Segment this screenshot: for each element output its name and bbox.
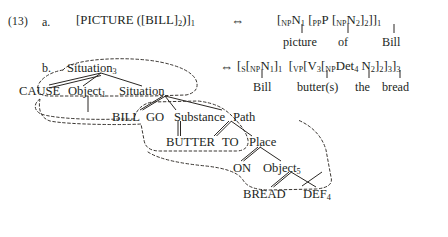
cs-node-butter: BUTTER [166,136,215,149]
cs-node-object5: Object5 [263,162,301,177]
cs-node-place: Place [249,136,276,149]
linguistics-figure: (13) a. [PICTURE ([BILL]2)]1 ⇔ [NPN1 [PP… [0,0,448,237]
cs-node-def4: DEF4 [303,188,331,203]
cs-node-path: Path [233,111,255,124]
cs-node-situation3: Situation3 [67,62,117,77]
cs-node-go: GO [146,111,164,124]
cs-node-object1: Object1 [68,85,106,100]
cs-node-substance: Substance [174,111,225,124]
cs-node-cause: CAUSE [19,85,60,98]
cs-node-bread: BREAD [243,188,286,201]
cs-node-on: ON [233,162,251,175]
cs-node-bill: BILL [112,111,140,124]
cs-node-situation: Situation [119,85,164,98]
cs-node-to: TO [222,136,239,149]
